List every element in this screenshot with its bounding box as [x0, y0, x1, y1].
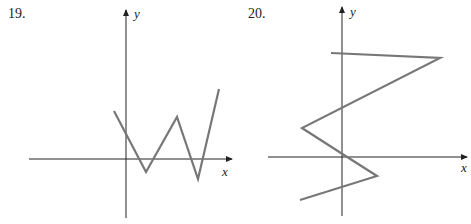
y-axis-label: y [132, 6, 140, 21]
piecewise-curve [114, 89, 219, 179]
graph-19: x y [29, 6, 232, 218]
x-axis-label: x [221, 164, 228, 179]
y-axis-label: y [348, 4, 356, 19]
graphs-canvas: x y x y [0, 0, 471, 224]
x-axis-label: x [460, 160, 467, 175]
graph-20: x y [268, 4, 467, 216]
relation-curve [300, 53, 440, 200]
